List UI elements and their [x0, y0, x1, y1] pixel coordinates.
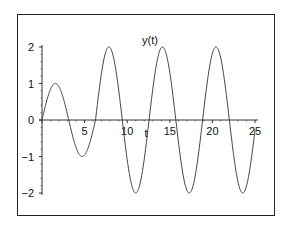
x-tick-label: 20 [206, 125, 218, 137]
x-tick-label: 15 [164, 125, 176, 137]
y-tick-label: −2 [21, 187, 34, 199]
line-chart: −2−1012510152025 y(t) t [0, 0, 290, 228]
y-tick-label: 2 [28, 41, 34, 53]
x-tick-label: 5 [82, 125, 88, 137]
y-tick-label: 0 [28, 114, 34, 126]
axes [39, 45, 258, 195]
x-axis-label: t [144, 127, 147, 139]
chart-title: y(t) [142, 34, 158, 46]
y-tick-label: 1 [28, 78, 34, 90]
y-tick-label: −1 [21, 151, 34, 163]
